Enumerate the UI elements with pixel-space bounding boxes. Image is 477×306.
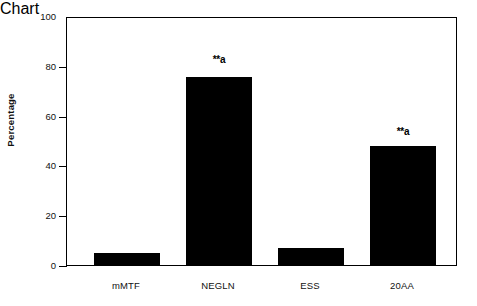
bar-annotation-negln: **a [186, 54, 252, 65]
x-tick-label-mmtf: mMTF [93, 280, 159, 291]
y-tick-label-80: 80 [16, 62, 56, 72]
y-tick-label-40: 40 [16, 161, 56, 171]
bar-annotation-20aa: **a [370, 126, 436, 137]
y-tick-label-60: 60 [16, 112, 56, 122]
bar-ess [278, 248, 344, 265]
plot-area [66, 17, 457, 266]
x-tick-label-ess: ESS [277, 280, 343, 291]
y-tick-label-100: 100 [16, 12, 56, 22]
x-tick-label-20aa: 20AA [369, 280, 435, 291]
x-tick-label-negln: NEGLN [185, 280, 251, 291]
bar-negln [186, 77, 252, 265]
bar-20aa [370, 146, 436, 265]
bar-chart-figure: Percentage 100 80 60 40 20 0 **a **a mMT… [0, 0, 477, 306]
y-tick-label-0: 0 [16, 261, 56, 271]
y-tick-label-20: 20 [16, 211, 56, 221]
y-tick-mark-0 [59, 266, 67, 267]
bar-mmtf [94, 253, 160, 265]
